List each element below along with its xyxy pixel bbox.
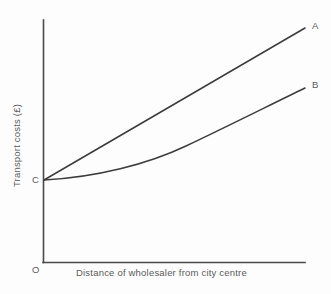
chart-plot-area xyxy=(0,0,331,294)
origin-label-o: O xyxy=(32,264,40,275)
y-axis-title: Transport costs (£) xyxy=(11,86,22,206)
series-line-b xyxy=(44,88,305,180)
series-line-a xyxy=(44,28,305,180)
x-axis-title: Distance of wholesaler from city centre xyxy=(76,267,247,278)
series-label-b: B xyxy=(312,79,319,90)
series-label-a: A xyxy=(312,20,319,31)
transport-costs-chart: A B C O Distance of wholesaler from city… xyxy=(0,0,331,294)
intercept-label-c: C xyxy=(32,174,39,185)
